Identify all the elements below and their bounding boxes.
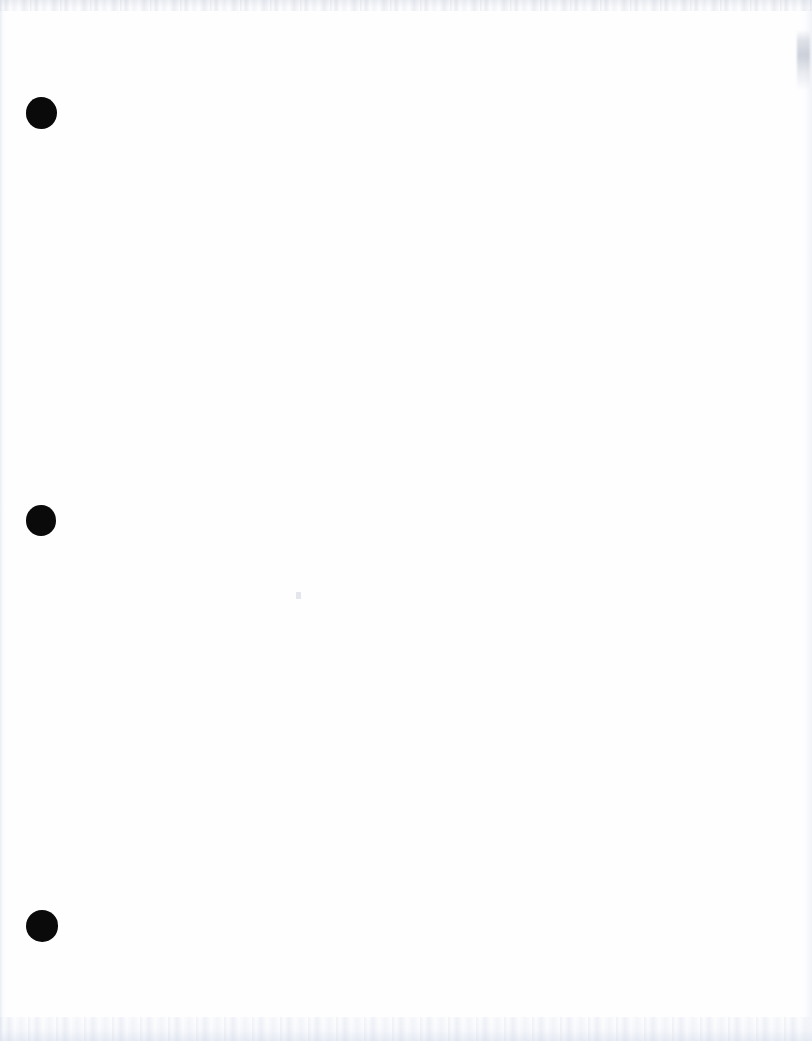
scanned-document-page: [0, 0, 812, 1041]
left-edge-shading: [0, 0, 6, 1041]
top-scan-noise-band: [0, 0, 812, 11]
paper-surface: [0, 0, 812, 1041]
dust-speck: [296, 592, 301, 599]
bottom-scan-noise-band: [0, 1017, 812, 1041]
binder-hole-bottom: [26, 910, 58, 942]
binder-hole-middle: [26, 505, 56, 536]
right-edge-smudge: [797, 30, 810, 90]
right-edge-shading: [800, 0, 812, 1041]
binder-hole-top: [26, 97, 57, 129]
